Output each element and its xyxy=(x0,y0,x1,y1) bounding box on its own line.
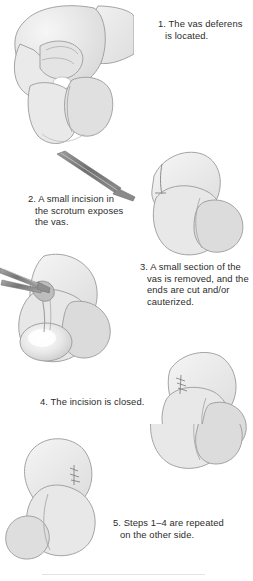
opposite-side-illustration xyxy=(2,432,114,567)
forceps-icon xyxy=(0,260,66,306)
step-4-caption: 4. The incision is closed. xyxy=(40,396,167,408)
scalpel-incision-illustration xyxy=(140,146,253,258)
footer-divider xyxy=(42,574,205,575)
step-5-caption: 5. Steps 1–4 are repeated on the other s… xyxy=(113,517,248,540)
step-1-caption: 1. The vas deferens is located. xyxy=(158,18,253,41)
vasectomy-figure: 1. The vas deferens is located. xyxy=(0,0,253,581)
step-2-caption: 2. A small incision in the scrotum expos… xyxy=(28,193,140,228)
closed-incision-illustration-partial xyxy=(150,424,253,482)
hand-grasping-scrotum-illustration xyxy=(2,0,134,150)
step-3-caption: 3. A small section of the vas is removed… xyxy=(140,261,253,307)
